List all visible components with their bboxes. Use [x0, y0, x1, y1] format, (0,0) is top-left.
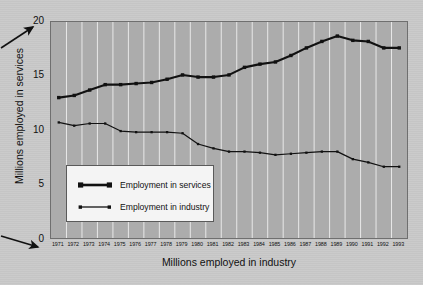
legend-swatch-industry [77, 200, 113, 214]
data-point [134, 82, 137, 85]
y-axis: 20 15 10 5 0 [0, 0, 50, 260]
x-tick-label: 1985 [267, 241, 282, 247]
x-tick-label: 1992 [375, 241, 390, 247]
data-point [398, 46, 401, 49]
data-point [73, 125, 75, 127]
data-point [57, 96, 60, 99]
x-tick-label: 1983 [236, 241, 251, 247]
y-tick-label-15: 15 [33, 70, 44, 80]
x-tick-label: 1993 [391, 241, 406, 247]
series-line-services [59, 36, 400, 98]
x-axis-title: Millions employed in industry [50, 256, 408, 268]
data-point [352, 158, 354, 160]
data-point [73, 94, 76, 97]
x-tick-label: 1976 [127, 241, 142, 247]
x-tick-label: 1978 [158, 241, 173, 247]
data-point [165, 78, 168, 81]
data-point [104, 122, 106, 124]
data-point [290, 153, 292, 155]
y-tick-label-10: 10 [33, 125, 44, 135]
data-point [166, 131, 168, 133]
data-point [58, 121, 60, 123]
chart-legend: Employment in services Employment in ind… [66, 165, 214, 222]
x-tick-label: 1980 [189, 241, 204, 247]
data-point [367, 161, 369, 163]
data-point [103, 83, 106, 86]
data-point [120, 130, 122, 132]
x-tick-label: 1972 [65, 241, 80, 247]
x-tick-label: 1982 [220, 241, 235, 247]
data-point [243, 66, 246, 69]
data-point [320, 40, 323, 43]
legend-swatch-services [77, 178, 113, 192]
x-axis: 1971197219731974197519761977197819791980… [50, 241, 408, 253]
legend-item-services[interactable]: Employment in services [67, 176, 213, 194]
x-tick-label: 1971 [50, 241, 65, 247]
data-point [212, 147, 214, 149]
data-point [181, 73, 184, 76]
data-point [197, 143, 199, 145]
x-tick-label: 1986 [282, 241, 297, 247]
data-point [383, 166, 385, 168]
data-point [289, 54, 292, 57]
data-point [212, 75, 215, 78]
y-tick-label-20: 20 [33, 16, 44, 26]
x-tick-label: 1974 [96, 241, 111, 247]
data-point [336, 34, 339, 37]
data-point [274, 154, 276, 156]
data-point [196, 75, 199, 78]
x-tick-label: 1988 [313, 241, 328, 247]
data-point [89, 122, 91, 124]
x-tick-label: 1987 [298, 241, 313, 247]
x-tick-label: 1990 [344, 241, 359, 247]
data-point [305, 152, 307, 154]
data-point [150, 81, 153, 84]
data-point [259, 152, 261, 154]
data-point [351, 39, 354, 42]
legend-label-industry: Employment in industry [120, 202, 209, 212]
x-tick-label: 1981 [205, 241, 220, 247]
series-line-industry [59, 122, 400, 166]
data-point [181, 132, 183, 134]
y-axis-title: Millions employed in services [13, 31, 25, 201]
data-point [398, 166, 400, 168]
data-point [227, 73, 230, 76]
x-tick-label: 1975 [112, 241, 127, 247]
data-point [119, 83, 122, 86]
data-point [336, 150, 338, 152]
data-point [367, 40, 370, 43]
data-point [88, 88, 91, 91]
x-tick-label: 1979 [174, 241, 189, 247]
x-tick-label: 1989 [329, 241, 344, 247]
data-point [274, 60, 277, 63]
data-point [321, 150, 323, 152]
data-point [382, 46, 385, 49]
x-tick-label: 1973 [81, 241, 96, 247]
x-tick-label: 1984 [251, 241, 266, 247]
x-tick-label: 1977 [143, 241, 158, 247]
data-point [258, 62, 261, 65]
data-point [228, 150, 230, 152]
legend-item-industry[interactable]: Employment in industry [67, 198, 213, 216]
x-tick-label: 1991 [360, 241, 375, 247]
chart-figure: 20 15 10 5 0 Millions employed in servic… [0, 0, 423, 285]
y-tick-label-0: 0 [38, 234, 44, 244]
data-point [243, 150, 245, 152]
y-tick-label-5: 5 [38, 179, 44, 189]
data-point [135, 131, 137, 133]
data-point [150, 131, 152, 133]
legend-label-services: Employment in services [120, 180, 211, 190]
data-point [305, 46, 308, 49]
